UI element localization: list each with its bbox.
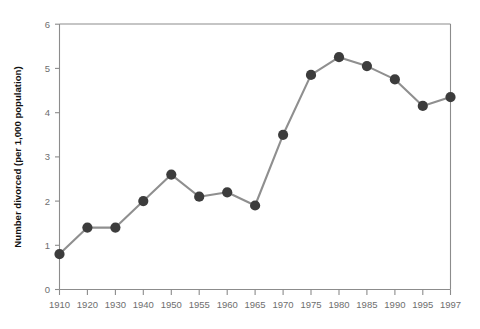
data-point-1960	[222, 187, 232, 197]
x-tick-label-1970: 1970	[273, 299, 294, 310]
data-point-1990	[390, 74, 400, 84]
data-point-1965	[250, 200, 260, 210]
y-tick-label-6: 6	[45, 19, 50, 30]
x-tick-label-1950: 1950	[161, 299, 182, 310]
data-series	[54, 52, 455, 259]
x-tick-label-1940: 1940	[133, 299, 154, 310]
data-point-1940	[138, 196, 148, 206]
x-tick-label-1965: 1965	[245, 299, 266, 310]
x-tick-label-1920: 1920	[77, 299, 98, 310]
data-point-1970	[278, 130, 288, 140]
data-point-1980	[334, 52, 344, 62]
x-tick-label-1975: 1975	[300, 299, 321, 310]
y-tick-label-3: 3	[45, 151, 50, 162]
data-point-1920	[82, 223, 92, 233]
x-tick-label-1995: 1995	[412, 299, 433, 310]
data-point-1995	[418, 101, 428, 111]
y-tick-label-0: 0	[45, 284, 50, 295]
data-point-1955	[194, 192, 204, 202]
y-axis-title: Number divorced (per 1,000 population)	[12, 66, 23, 247]
x-tick-label-1910: 1910	[49, 299, 70, 310]
divorce-rate-line-chart: 0 1 2 3 4 5 6 1910 1920 1930 1940	[0, 0, 480, 329]
data-point-1997	[445, 92, 455, 102]
x-tick-label-1997: 1997	[440, 299, 461, 310]
x-tick-label-1930: 1930	[105, 299, 126, 310]
x-tick-label-1990: 1990	[384, 299, 405, 310]
data-point-1975	[306, 70, 316, 80]
y-tick-label-2: 2	[45, 196, 50, 207]
y-tick-label-4: 4	[45, 107, 50, 118]
x-tick-label-1960: 1960	[217, 299, 238, 310]
data-point-1910	[54, 249, 64, 259]
x-tick-label-1985: 1985	[356, 299, 377, 310]
data-point-1950	[166, 170, 176, 180]
y-tick-label-1: 1	[45, 240, 50, 251]
x-axis-ticks: 1910 1920 1930 1940 1950 1955 1960 1965 …	[49, 290, 461, 311]
data-point-1985	[362, 61, 372, 71]
chart-canvas: 0 1 2 3 4 5 6 1910 1920 1930 1940	[0, 0, 480, 329]
data-point-1930	[110, 223, 120, 233]
plot-frame	[60, 24, 451, 290]
x-tick-label-1980: 1980	[328, 299, 349, 310]
x-tick-label-1955: 1955	[189, 299, 210, 310]
y-tick-label-5: 5	[45, 63, 50, 74]
